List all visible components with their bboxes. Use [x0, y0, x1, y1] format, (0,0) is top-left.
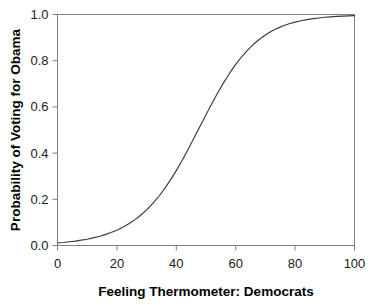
x-tick-label: 60 — [228, 256, 242, 271]
x-tick-label: 80 — [288, 256, 302, 271]
x-axis-title: Feeling Thermometer: Democrats — [98, 284, 313, 299]
x-tick-label: 0 — [54, 256, 61, 271]
logistic-curve-chart: 020406080100 0.00.20.40.60.81.0 Feeling … — [0, 0, 380, 307]
y-tick-label: 0.2 — [30, 192, 48, 207]
x-tick-label: 100 — [344, 256, 366, 271]
y-tick-label: 0.4 — [30, 146, 48, 161]
y-tick-label: 1.0 — [30, 7, 48, 22]
x-tick-label: 40 — [169, 256, 183, 271]
y-axis-title: Probability of Voting for Obama — [8, 28, 23, 231]
x-tick-label: 20 — [110, 256, 124, 271]
y-tick-label: 0.6 — [30, 99, 48, 114]
chart-figure: 020406080100 0.00.20.40.60.81.0 Feeling … — [0, 0, 380, 307]
y-tick-label: 0.8 — [30, 53, 48, 68]
y-tick-label: 0.0 — [30, 238, 48, 253]
